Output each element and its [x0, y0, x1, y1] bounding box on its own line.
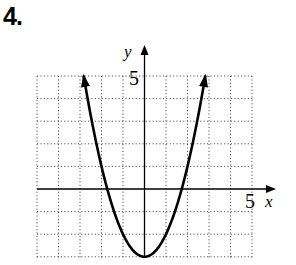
x-axis-label: x	[264, 192, 273, 211]
y-axis-label: y	[122, 42, 132, 61]
y-axis-arrow-icon	[141, 45, 149, 55]
x-tick-label: 5	[245, 190, 255, 212]
graph: y 5 5 x	[0, 0, 296, 265]
y-tick-label: 5	[129, 67, 139, 89]
axes	[37, 45, 276, 258]
